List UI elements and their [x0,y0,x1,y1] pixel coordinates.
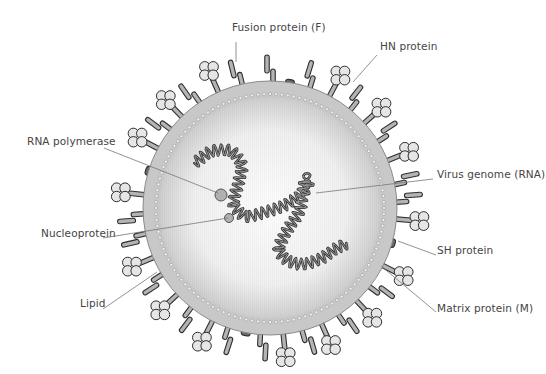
leader-line-sh [398,241,436,255]
virus-diagram [0,0,546,374]
label-matrix-protein: Matrix protein (M) [437,302,533,314]
label-virus-genome: Virus genome (RNA) [437,168,545,180]
label-fusion-protein: Fusion protein (F) [232,21,326,33]
label-sh-protein: SH protein [437,244,493,256]
virus-core [160,98,380,318]
label-lipid: Lipid [80,297,106,309]
rna-polymerase-icon [215,189,227,201]
label-rna-polymerase: RNA polymerase [27,135,116,147]
label-hn-protein: HN protein [380,40,437,52]
leader-line-hn [353,55,377,82]
label-nucleoprotein: Nucleoprotein [41,227,116,239]
